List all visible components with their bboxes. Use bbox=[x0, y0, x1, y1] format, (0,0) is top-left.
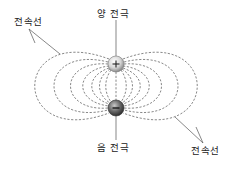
positive-electrode-label: 양 전극 bbox=[97, 9, 129, 19]
negative-electrode bbox=[108, 100, 124, 116]
positive-electrode bbox=[108, 56, 124, 72]
negative-electrode-label: 음 전극 bbox=[97, 143, 129, 153]
field-lines-label-top-left: 전속선 bbox=[14, 17, 43, 27]
field-lines-label-bottom-right: 전속선 bbox=[191, 146, 220, 156]
